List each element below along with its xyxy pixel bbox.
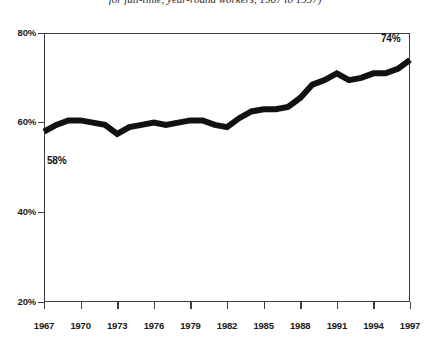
data-series-line (44, 33, 410, 302)
xtick-mark-1979 (190, 302, 191, 309)
xtick-mark-1991 (337, 302, 338, 309)
ytick-label-60: 60% (0, 117, 36, 127)
xtick-mark-1982 (227, 302, 228, 309)
xtick-mark-1976 (154, 302, 155, 309)
xtick-label-1973: 1973 (97, 320, 137, 331)
xtick-label-1985: 1985 (244, 320, 284, 331)
ytick-label-20: 20% (0, 297, 36, 307)
chart-figure: for full-time, year-round workers, 1967 … (0, 0, 430, 351)
annotation-end: 74% (381, 33, 400, 44)
ytick-label-40: 40% (0, 207, 36, 217)
xtick-label-1997: 1997 (390, 320, 430, 331)
xtick-mark-1988 (300, 302, 301, 309)
xtick-mark-1973 (117, 302, 118, 309)
xtick-label-1982: 1982 (207, 320, 247, 331)
xtick-label-1991: 1991 (317, 320, 357, 331)
xtick-label-1970: 1970 (61, 320, 101, 331)
annotation-start: 58% (47, 155, 66, 166)
xtick-label-1988: 1988 (280, 320, 320, 331)
xtick-mark-1994 (373, 302, 374, 309)
xtick-label-1976: 1976 (134, 320, 174, 331)
xtick-mark-1967 (44, 302, 45, 309)
xtick-mark-1985 (264, 302, 265, 309)
chart-caption: for full-time, year-round workers, 1967 … (0, 0, 430, 6)
xtick-label-1994: 1994 (353, 320, 393, 331)
ytick-label-80: 80% (0, 28, 36, 38)
xtick-label-1979: 1979 (170, 320, 210, 331)
xtick-label-1967: 1967 (24, 320, 64, 331)
xtick-mark-1970 (81, 302, 82, 309)
xtick-mark-1997 (410, 302, 411, 309)
